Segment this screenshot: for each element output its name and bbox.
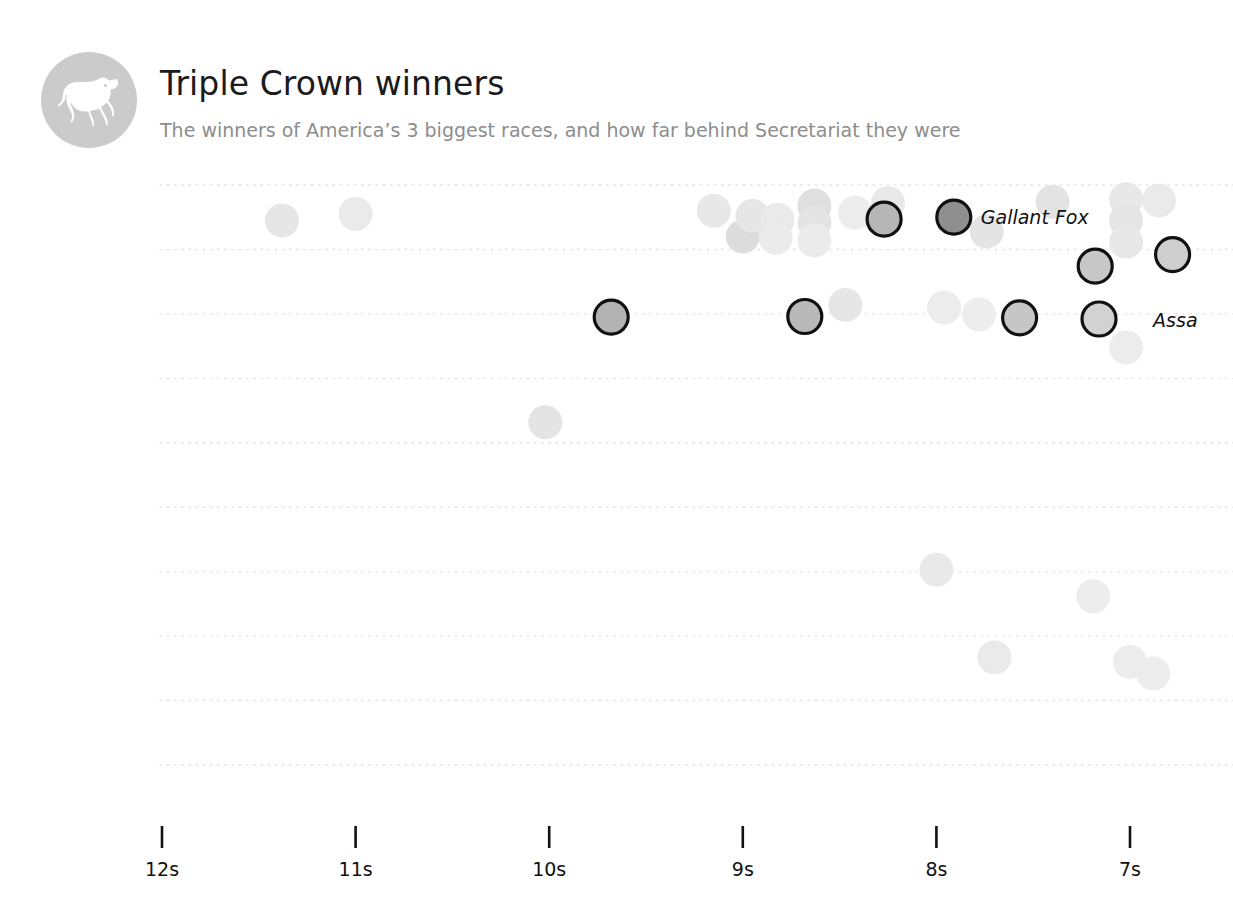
data-point-faded[interactable] [919, 553, 953, 587]
axis-tick-label: 12s [145, 858, 179, 880]
data-point-highlighted[interactable] [1156, 238, 1190, 272]
gridlines [160, 185, 1233, 765]
plot-canvas: Gallant FoxAssa 12s11s10s9s8s7s [0, 0, 1233, 912]
data-point-faded[interactable] [1109, 225, 1143, 259]
data-point-highlighted[interactable] [1082, 302, 1116, 336]
axis-tick-label: 9s [732, 858, 754, 880]
data-point-faded[interactable] [927, 290, 961, 324]
data-point-highlighted[interactable] [594, 300, 628, 334]
point-label: Assa [1151, 309, 1197, 331]
data-point-faded[interactable] [265, 203, 299, 237]
data-point-faded[interactable] [1109, 330, 1143, 364]
data-point-faded[interactable] [828, 288, 862, 322]
data-point-faded[interactable] [339, 197, 373, 231]
data-point-highlighted[interactable] [788, 300, 822, 334]
data-point-faded[interactable] [1136, 657, 1170, 691]
axis-tick-label: 8s [925, 858, 947, 880]
data-point-highlighted[interactable] [867, 202, 901, 236]
data-point-faded[interactable] [978, 640, 1012, 674]
axis-tick-label: 10s [532, 858, 566, 880]
data-points [265, 182, 1190, 690]
data-point-faded[interactable] [962, 298, 996, 332]
axis-tick-label: 7s [1119, 858, 1141, 880]
data-point-highlighted[interactable] [1078, 249, 1112, 283]
data-point-faded[interactable] [697, 194, 731, 228]
x-axis: 12s11s10s9s8s7s [145, 826, 1141, 880]
data-point-faded[interactable] [528, 405, 562, 439]
data-point-faded[interactable] [759, 221, 793, 255]
data-point-faded[interactable] [797, 223, 831, 257]
axis-tick-label: 11s [339, 858, 373, 880]
data-point-faded[interactable] [1076, 579, 1110, 613]
data-point-highlighted[interactable] [937, 200, 971, 234]
data-point-highlighted[interactable] [1003, 301, 1037, 335]
data-point-faded[interactable] [1142, 184, 1176, 218]
point-label: Gallant Fox [981, 206, 1090, 228]
scatter-plot: Gallant FoxAssa 12s11s10s9s8s7s [0, 0, 1233, 912]
